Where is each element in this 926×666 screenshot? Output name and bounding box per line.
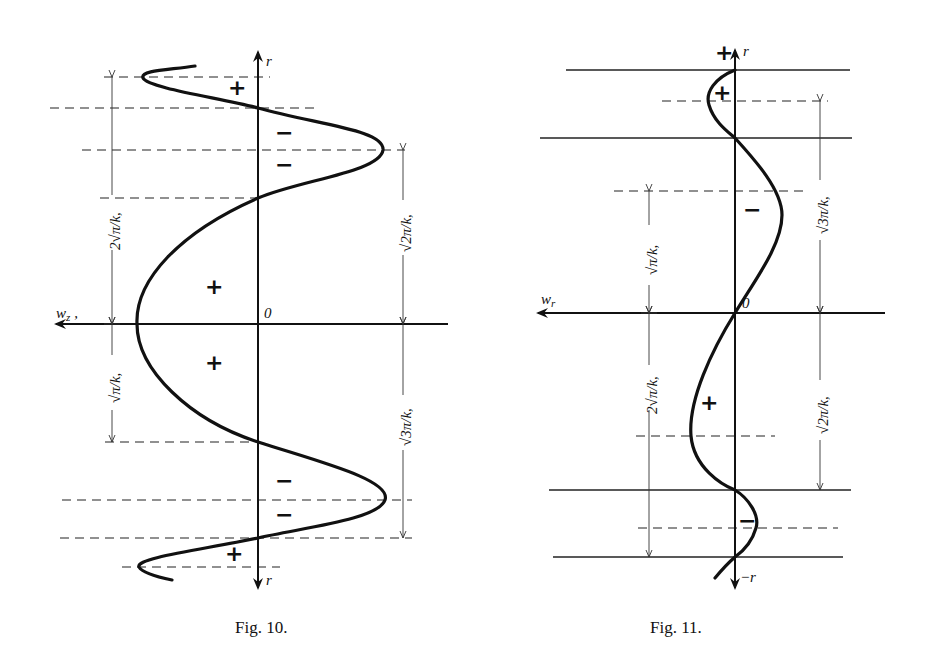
fig11-wave-curve	[691, 70, 782, 578]
fig10-sign-plus-3: +	[205, 350, 223, 375]
fig10-sign-minus-1: −	[275, 120, 293, 145]
svg-text:√2π/k,: √2π/k,	[398, 214, 414, 252]
fig10-sign-minus-4: −	[275, 502, 293, 527]
figure-11: √π/k, 2√π/k, √3π/k, √2π/k, + + − + − r −…	[538, 40, 885, 588]
fig10-label-sqrt-3pi-k: √3π/k,	[398, 408, 414, 446]
fig11-caption: Fig. 11.	[650, 618, 702, 637]
fig10-dashed-lines	[50, 77, 412, 567]
fig11-neg-r-label: −r	[740, 569, 756, 585]
fig11-wr-label: wr	[541, 291, 556, 309]
fig10-sign-minus-2: −	[275, 152, 293, 177]
fig10-sign-plus-2: +	[205, 274, 223, 299]
fig10-wz-label: wz,	[56, 305, 78, 323]
svg-text:2√π/k,: 2√π/k,	[644, 376, 660, 414]
fig11-sign-plus-1: +	[713, 80, 731, 105]
figures-canvas: 2√π/k, √π/k, √2π/k, √3π/k, + − − + + − −…	[0, 0, 926, 666]
svg-text:√2π/k,: √2π/k,	[815, 396, 831, 434]
fig10-label-2sqrt-pi-k: 2√π/k,	[107, 212, 123, 250]
fig11-dashed-lines	[614, 101, 838, 528]
svg-text:√3π/k,: √3π/k,	[398, 408, 414, 446]
fig11-sign-minus-1: −	[743, 197, 761, 222]
svg-text:√3π/k,: √3π/k,	[815, 196, 831, 234]
fig11-label-2sqrt-pi-k: 2√π/k,	[644, 376, 660, 414]
fig10-label-sqrt-pi-k: √π/k,	[107, 373, 123, 403]
fig11-sign-plus-top: +	[715, 40, 733, 65]
fig11-r-top-label: r	[743, 43, 749, 59]
fig11-sign-plus-2: +	[700, 390, 718, 415]
fig10-r-bottom-label: r	[266, 572, 272, 588]
svg-text:√π/k,: √π/k,	[107, 373, 123, 403]
figure-10: 2√π/k, √π/k, √2π/k, √3π/k, + − − + + − −…	[50, 52, 448, 588]
fig10-label-sqrt-2pi-k: √2π/k,	[398, 214, 414, 252]
fig11-label-sqrt-pi-k: √π/k,	[644, 245, 660, 275]
fig10-origin-label: 0	[264, 305, 272, 321]
svg-text:√π/k,: √π/k,	[644, 245, 660, 275]
fig10-sign-plus-4: +	[225, 541, 243, 566]
fig11-origin-label: 0	[742, 295, 750, 311]
fig11-label-sqrt-2pi-k: √2π/k,	[815, 396, 831, 434]
fig10-r-top-label: r	[266, 53, 272, 69]
fig10-caption: Fig. 10.	[235, 618, 287, 637]
svg-text:2√π/k,: 2√π/k,	[107, 212, 123, 250]
fig11-label-sqrt-3pi-k: √3π/k,	[815, 196, 831, 234]
fig11-sign-minus-2: −	[738, 508, 756, 533]
fig10-sign-plus-1: +	[228, 75, 246, 100]
fig10-sign-minus-3: −	[275, 468, 293, 493]
